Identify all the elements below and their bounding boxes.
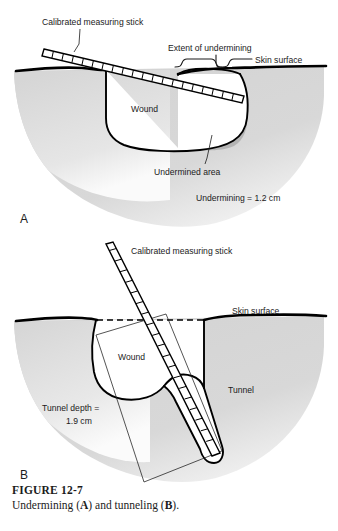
caption-post: ).	[172, 499, 179, 511]
label-measuring-stick-a: Calibrated measuring stick	[42, 17, 144, 27]
figure-caption: FIGURE 12-7 Undermining (A) and tunnelin…	[12, 484, 332, 512]
label-tunnel-depth-line1: Tunnel depth =	[42, 403, 99, 413]
figure-caption-text: Undermining (A) and tunneling (B).	[12, 498, 332, 512]
label-tunnel-depth-line2: 1.9 cm	[66, 416, 92, 426]
label-undermining-measurement: Undermining = 1.2 cm	[196, 193, 280, 203]
leader-line-measuring-stick-a	[74, 29, 80, 52]
label-skin-surface-a: Skin surface	[255, 55, 303, 65]
label-undermined-area: Undermined area	[154, 167, 221, 177]
label-wound-b: Wound	[118, 352, 145, 362]
label-measuring-stick-b: Calibrated measuring stick	[131, 246, 233, 256]
caption-mid: ) and tunneling (	[88, 499, 164, 511]
caption-pre: Undermining (	[12, 499, 80, 511]
panel-a-undermining: Calibrated measuring stick Extent of und…	[0, 0, 338, 236]
label-skin-surface-b: Skin surface	[232, 306, 280, 316]
figure-illustration: Calibrated measuring stick Extent of und…	[0, 0, 338, 531]
panel-b-tunneling: Calibrated measuring stick Skin surface …	[0, 236, 338, 496]
label-tunnel: Tunnel	[228, 385, 254, 395]
panel-label-b: B	[20, 468, 28, 482]
figure-number: FIGURE 12-7	[12, 484, 332, 497]
label-extent-of-undermining: Extent of undermining	[168, 43, 252, 53]
extent-brace	[175, 55, 252, 67]
label-wound-a: Wound	[131, 104, 158, 114]
panel-label-a: A	[20, 212, 28, 226]
